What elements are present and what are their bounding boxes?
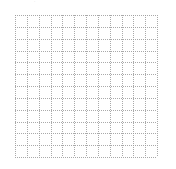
grid-vline	[86, 15, 87, 157]
stray-mark: ·	[34, 0, 38, 3]
grid-vline	[145, 15, 146, 157]
grid-vline	[39, 15, 40, 157]
grid-vline	[51, 15, 52, 157]
grid-vline	[133, 15, 134, 157]
grid-hline	[15, 157, 157, 158]
grid-vline	[122, 15, 123, 157]
grid-vline	[98, 15, 99, 157]
grid-vline	[62, 15, 63, 157]
grid-vline	[74, 15, 75, 157]
grid-vline	[157, 15, 158, 157]
grid-vline	[110, 15, 111, 157]
dotted-grid	[15, 15, 157, 157]
grid-vline	[15, 15, 16, 157]
grid-canvas: ·	[0, 0, 176, 169]
grid-vline	[27, 15, 28, 157]
